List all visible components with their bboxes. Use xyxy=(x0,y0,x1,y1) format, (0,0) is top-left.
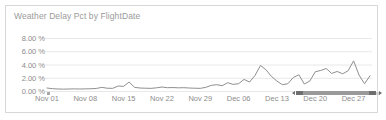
plot-area: 0.00 %2.00 %4.00 %6.00 %8.00 % Nov 01Nov… xyxy=(6,6,377,112)
y-tick-label: 4.00 % xyxy=(11,60,45,69)
x-axis: Nov 01Nov 08Nov 15Nov 22Nov 29Dec 06Dec … xyxy=(6,94,377,108)
y-tick-label: 2.00 % xyxy=(11,73,45,82)
scrollbar-right-grip[interactable] xyxy=(369,91,376,95)
x-tick-label: Nov 15 xyxy=(112,94,136,103)
origin-marker-icon xyxy=(47,92,50,95)
chart-widget: Weather Delay Pct by FlightDate 0.00 %2.… xyxy=(5,5,378,113)
x-tick-label: Dec 06 xyxy=(227,94,251,103)
gridlines xyxy=(45,39,372,92)
x-tick-label: Nov 08 xyxy=(73,94,97,103)
x-tick-label: Nov 01 xyxy=(35,94,59,103)
y-tick-label: 8.00 % xyxy=(11,34,45,43)
y-tick-label: 6.00 % xyxy=(11,47,45,56)
horizontal-range-scrollbar[interactable] xyxy=(292,90,384,96)
x-tick-label: Nov 22 xyxy=(150,94,174,103)
scroll-right-arrow-icon[interactable] xyxy=(379,91,382,95)
scroll-left-arrow-icon[interactable] xyxy=(292,91,295,95)
x-tick-label: Dec 13 xyxy=(265,94,289,103)
scrollbar-left-grip[interactable] xyxy=(296,91,303,95)
x-tick-label: Nov 29 xyxy=(188,94,212,103)
scrollbar-thumb[interactable] xyxy=(296,91,376,95)
